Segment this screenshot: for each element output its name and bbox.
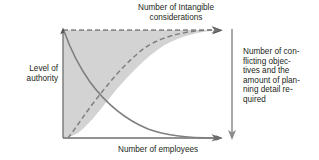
diagram-canvas: Number of Intangible considerations Leve… [0, 0, 319, 160]
shaded-region [63, 30, 222, 138]
label-intangible-considerations: Number of Intangible considerations [120, 3, 232, 22]
label-number-of-employees: Number of employees [118, 145, 230, 155]
label-level-of-authority: Level of authority [6, 64, 58, 83]
label-conflicting-objectives: Number of con- flicting objec- tives and… [243, 47, 317, 105]
